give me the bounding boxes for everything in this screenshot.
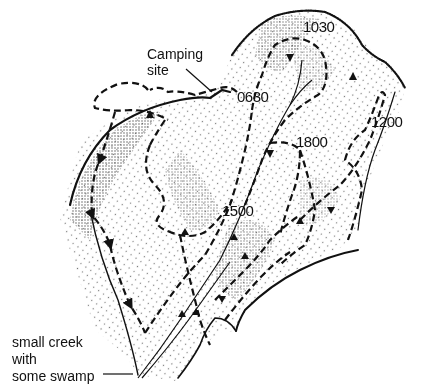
time-label-1200: 1200 bbox=[371, 114, 402, 129]
creek-label-line2: with bbox=[12, 351, 94, 368]
camping-site-label: Camping site bbox=[147, 47, 203, 77]
time-label-1030: 1030 bbox=[303, 19, 334, 34]
time-label-1500: 1500 bbox=[222, 203, 253, 218]
creek-label: small creek with some swamp bbox=[12, 334, 94, 385]
camping-site-label-line2: site bbox=[147, 63, 203, 77]
time-label-0630: 0630 bbox=[237, 89, 268, 104]
time-label-1800: 1800 bbox=[296, 134, 327, 149]
creek-label-line1: small creek bbox=[12, 334, 94, 351]
map-canvas: Camping site small creek with some swamp… bbox=[0, 0, 425, 391]
terrain-map-svg bbox=[0, 0, 425, 391]
creek-label-line3: some swamp bbox=[12, 368, 94, 385]
camping-site-label-line1: Camping bbox=[147, 47, 203, 61]
